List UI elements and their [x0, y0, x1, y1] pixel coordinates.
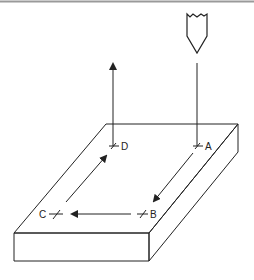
- point-d-marker: [109, 143, 119, 149]
- point-c-label: C: [39, 209, 46, 220]
- path-c-to-d: [66, 156, 106, 202]
- path-a-to-b: [154, 153, 193, 201]
- point-b-label: B: [150, 209, 157, 220]
- point-a-marker: [193, 143, 203, 149]
- point-a-label: A: [205, 141, 212, 152]
- block-side-face: [149, 124, 238, 261]
- point-c-marker: [49, 210, 63, 219]
- toolpath-diagram: A B C D: [0, 0, 254, 280]
- cutting-tool-icon: [187, 14, 207, 53]
- diagram-canvas: A B C D: [0, 0, 254, 280]
- point-b-marker: [137, 210, 148, 218]
- point-d-label: D: [121, 141, 128, 152]
- block-front-face: [14, 233, 149, 261]
